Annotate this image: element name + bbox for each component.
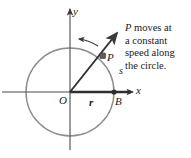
point-p-marker (100, 53, 105, 58)
point-b-marker (111, 89, 116, 94)
origin-label: O (59, 95, 67, 106)
caption-line-2: a constant (125, 35, 191, 48)
x-axis-label: x (136, 85, 141, 96)
caption-line-1-rest: moves at (131, 22, 171, 33)
caption-line-4: the circle. (125, 60, 191, 73)
y-axis-label: y (73, 6, 78, 17)
caption-line-3: speed along (125, 47, 191, 60)
arc-length-label: s (119, 66, 123, 76)
caption-block: P moves at a constant speed along the ci… (125, 22, 191, 72)
point-p-label: P (107, 52, 114, 63)
caption-line-1: P moves at (125, 22, 191, 35)
circular-motion-diagram: y x O r B P s P moves at a constant spee… (0, 0, 191, 158)
direction-arrow-icon (79, 39, 98, 46)
point-b-label: B (115, 96, 122, 107)
radius-label: r (89, 97, 93, 108)
